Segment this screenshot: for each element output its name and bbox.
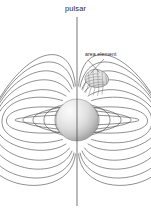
pulsar-field-figure: pulsar area element: [0, 0, 151, 218]
area-element-label: area element: [85, 51, 116, 57]
field-diagram-canvas: [0, 0, 151, 218]
pulsar-label: pulsar: [0, 4, 151, 13]
area-element-patch: [83, 69, 109, 96]
